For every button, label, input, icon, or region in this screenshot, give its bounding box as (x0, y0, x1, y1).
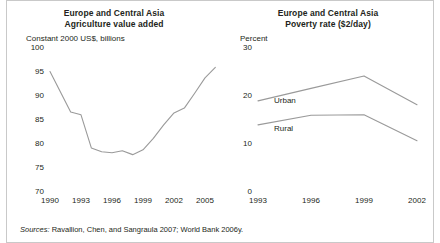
y-tick-label: 0 (248, 187, 253, 196)
x-tick-label: 1996 (302, 196, 320, 205)
sources-text: Ravallion, Chen, and Sangraula 2007; Wor… (50, 225, 244, 234)
figure-container: Europe and Central Asia Agriculture valu… (0, 0, 440, 243)
y-tick-label: 85 (35, 115, 44, 124)
y-tick-label: 30 (243, 43, 252, 52)
chart-plot-agriculture: 100 95 90 85 80 75 70 1990 1993 1996 199… (8, 0, 220, 243)
sources-note: Sources: Ravallion, Chen, and Sangraula … (20, 225, 243, 234)
series-label-rural: Rural (274, 124, 293, 133)
series-label-urban: Urban (274, 96, 296, 105)
figure-frame-left (6, 0, 7, 243)
x-tick-label: 1999 (355, 196, 373, 205)
x-tick-label: 1993 (249, 196, 267, 205)
y-tick-label: 90 (35, 91, 44, 100)
chart-panel-poverty: Europe and Central Asia Poverty rate ($2… (222, 0, 434, 243)
sources-prefix: Sources: (20, 225, 50, 234)
x-tick-label: 1993 (72, 196, 90, 205)
x-tick-label: 1996 (103, 196, 121, 205)
chart-plot-poverty: 30 20 10 0 1993 1996 1999 2002 Urban Rur… (222, 0, 434, 243)
x-tick-label: 2002 (165, 196, 183, 205)
y-tick-label: 95 (35, 67, 44, 76)
x-tick-label: 1990 (41, 196, 59, 205)
series-line-agriculture (50, 67, 215, 154)
y-tick-label: 75 (35, 163, 44, 172)
chart-panel-agriculture: Europe and Central Asia Agriculture valu… (8, 0, 220, 243)
y-tick-label: 100 (31, 43, 45, 52)
y-tick-label: 20 (243, 91, 252, 100)
y-tick-label: 80 (35, 139, 44, 148)
x-tick-label: 2005 (196, 196, 214, 205)
y-tick-label: 70 (35, 187, 44, 196)
y-tick-label: 10 (243, 139, 252, 148)
x-tick-label: 1999 (134, 196, 152, 205)
x-tick-label: 2002 (408, 196, 426, 205)
